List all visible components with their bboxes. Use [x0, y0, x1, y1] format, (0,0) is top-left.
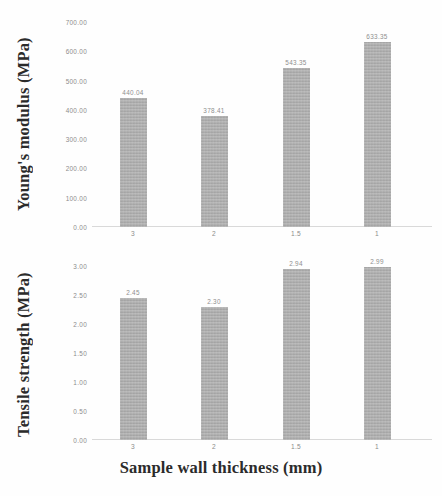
bar-slot: 543.35	[283, 22, 310, 227]
y-tick-label: 0.50	[73, 408, 87, 415]
x-tick-label: 1.5	[291, 443, 301, 450]
bar-value-label: 2.30	[207, 298, 221, 305]
x-axis-ticks-youngs-modulus: 321.51	[92, 230, 432, 244]
y-axis-title-youngs-modulus: Young's modulus (MPa)	[14, 24, 34, 224]
x-axis-ticks-tensile-strength: 321.51	[92, 443, 432, 457]
bar[interactable]	[120, 98, 147, 227]
y-tick-label: 0.00	[73, 224, 87, 231]
bar[interactable]	[201, 307, 228, 440]
bar-slot: 2.94	[283, 266, 310, 440]
x-tick-label: 3	[131, 443, 135, 450]
bar-value-label: 2.45	[126, 289, 140, 296]
bar[interactable]	[283, 68, 310, 227]
bar-slot: 2.99	[364, 266, 391, 440]
y-tick-label: 0.00	[73, 437, 87, 444]
x-tick-label: 1	[375, 230, 379, 237]
x-axis-title: Sample wall thickness (mm)	[0, 458, 442, 478]
x-tick-label: 3	[131, 230, 135, 237]
bar[interactable]	[364, 267, 391, 440]
y-tick-label: 100.00	[66, 194, 87, 201]
plot-area-tensile-strength: 0.000.501.001.502.002.503.00 2.452.302.9…	[92, 266, 432, 440]
y-tick-label: 500.00	[66, 77, 87, 84]
chart-tensile-strength: Tensile strength (MPa) 0.000.501.001.502…	[0, 252, 442, 464]
y-tick-label: 2.00	[73, 321, 87, 328]
y-tick-label: 2.50	[73, 292, 87, 299]
x-tick-label: 1	[375, 443, 379, 450]
x-tick-label: 2	[212, 230, 216, 237]
bar-slot: 2.45	[120, 266, 147, 440]
bar[interactable]	[283, 269, 310, 440]
y-axis-title-tensile-strength: Tensile strength (MPa)	[14, 260, 34, 450]
bar-value-label: 543.35	[285, 59, 306, 66]
figure-root: Young's modulus (MPa) 0.00100.00200.0030…	[0, 0, 442, 496]
bar[interactable]	[120, 298, 147, 440]
chart-youngs-modulus: Young's modulus (MPa) 0.00100.00200.0030…	[0, 0, 442, 252]
bar-value-label: 633.35	[366, 33, 387, 40]
y-tick-label: 1.00	[73, 379, 87, 386]
bar-value-label: 378.41	[203, 107, 224, 114]
bar-series-tensile-strength: 2.452.302.942.99	[92, 266, 432, 440]
bar-value-label: 2.99	[370, 258, 384, 265]
bar-slot: 378.41	[201, 22, 228, 227]
y-tick-label: 600.00	[66, 48, 87, 55]
y-tick-label: 700.00	[66, 19, 87, 26]
bar-series-youngs-modulus: 440.04378.41543.35633.35	[92, 22, 432, 227]
bar-slot: 440.04	[120, 22, 147, 227]
bar-slot: 2.30	[201, 266, 228, 440]
bar-value-label: 2.94	[289, 260, 303, 267]
x-tick-label: 2	[212, 443, 216, 450]
bar[interactable]	[201, 116, 228, 227]
bar-slot: 633.35	[364, 22, 391, 227]
y-tick-label: 1.50	[73, 350, 87, 357]
bar[interactable]	[364, 42, 391, 227]
y-tick-label: 400.00	[66, 106, 87, 113]
y-tick-label: 300.00	[66, 136, 87, 143]
x-tick-label: 1.5	[291, 230, 301, 237]
y-tick-label: 3.00	[73, 263, 87, 270]
plot-area-youngs-modulus: 0.00100.00200.00300.00400.00500.00600.00…	[92, 22, 432, 227]
bar-value-label: 440.04	[122, 89, 143, 96]
y-tick-label: 200.00	[66, 165, 87, 172]
